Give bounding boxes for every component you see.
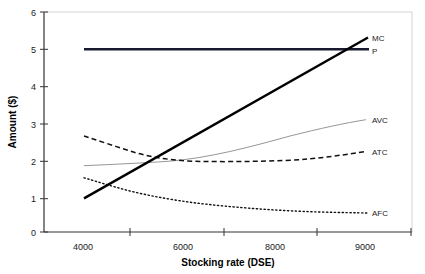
series-label-avc: AVC bbox=[372, 116, 388, 125]
series-label-atc: ATC bbox=[372, 148, 388, 157]
x-tick-label-4000: 4000 bbox=[73, 242, 93, 252]
y-tick-label-4: 4 bbox=[31, 82, 36, 92]
y-axis-title: Amount ($) bbox=[7, 96, 18, 149]
y-tick-label-2: 2 bbox=[31, 157, 36, 167]
y-tick-label-5: 5 bbox=[31, 45, 36, 55]
x-tick-label-6000: 6000 bbox=[173, 242, 193, 252]
y-tick-label-6: 6 bbox=[31, 8, 36, 18]
y-tick-label-0: 0 bbox=[31, 228, 36, 238]
cost-curves-chart: 6 5 4 3 2 1 0 4000 6000 8000 9000 Stocki… bbox=[0, 0, 425, 274]
series-label-p: P bbox=[372, 47, 377, 56]
chart-figure: 6 5 4 3 2 1 0 4000 6000 8000 9000 Stocki… bbox=[0, 0, 425, 274]
x-axis-title: Stocking rate (DSE) bbox=[181, 257, 274, 268]
series-label-mc: MC bbox=[372, 34, 385, 43]
y-tick-label-1: 1 bbox=[31, 194, 36, 204]
series-label-afc: AFC bbox=[372, 209, 388, 218]
x-tick-label-8000: 8000 bbox=[265, 242, 285, 252]
x-tick-label-9000: 9000 bbox=[355, 242, 375, 252]
y-tick-label-3: 3 bbox=[31, 120, 36, 130]
